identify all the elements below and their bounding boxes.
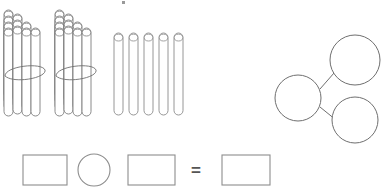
loose-stick-4 [159, 33, 168, 115]
number-bond-whole-circle[interactable] [275, 75, 321, 121]
top-speck-artifact [122, 1, 125, 4]
number-bond-connector-top [320, 73, 334, 89]
equals-sign: = [191, 161, 201, 180]
number-bond-group [275, 35, 380, 143]
first-addend-box[interactable] [23, 155, 67, 185]
loose-stick-5 [174, 33, 183, 115]
equation-row-group: = [23, 154, 270, 186]
loose-stick-3 [144, 33, 153, 115]
bundle-1-sticks [4, 10, 40, 116]
operator-circle[interactable] [78, 154, 110, 186]
number-bond-part-circle-bottom[interactable] [332, 97, 378, 143]
loose-stick-2 [129, 33, 138, 115]
bundle-of-ten-2 [55, 10, 96, 116]
number-bond-part-circle-top[interactable] [330, 35, 380, 85]
worksheet-canvas: = [0, 0, 385, 193]
bundle-of-ten-1 [4, 10, 45, 116]
bundle-2-sticks [55, 10, 91, 116]
loose-sticks-group [114, 33, 183, 115]
sum-box[interactable] [222, 155, 270, 185]
loose-stick-1 [114, 33, 123, 115]
second-addend-box[interactable] [128, 155, 175, 185]
worksheet-svg: = [0, 0, 385, 193]
